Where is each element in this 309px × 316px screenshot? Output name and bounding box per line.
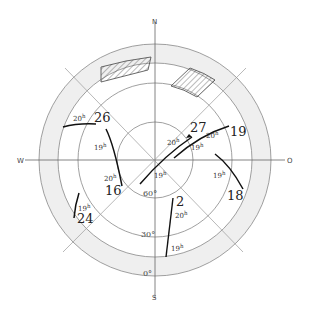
sky-chart: N S W O 60° 30° 0° 20h 26 19h 20h 16 19h… — [0, 0, 309, 316]
track-label-19: 19 — [230, 124, 247, 139]
hour-label: 19h — [213, 170, 226, 180]
track-label-18: 18 — [227, 188, 244, 203]
altitude-30-label: 30° — [141, 230, 155, 239]
west-label: W — [17, 157, 24, 165]
hour-label: 19h — [154, 170, 167, 180]
altitude-60-label: 60° — [143, 189, 157, 198]
track-label-2: 2 — [176, 194, 184, 209]
hour-label: 19h — [191, 142, 204, 152]
hour-label: 19h — [171, 243, 184, 253]
south-label: S — [152, 294, 157, 302]
hour-label: 20h — [206, 130, 219, 140]
track-label-27: 27 — [190, 120, 207, 135]
hour-label: 20h — [73, 113, 86, 123]
track-label-16: 16 — [105, 183, 122, 198]
hour-label: 20h — [175, 210, 188, 220]
track-label-26: 26 — [94, 110, 111, 125]
east-label: O — [287, 157, 293, 165]
hour-label: 20h — [167, 137, 180, 147]
altitude-0-label: 0° — [143, 269, 152, 278]
hour-label: 19h — [94, 142, 107, 152]
track-26 — [63, 124, 96, 127]
north-label: N — [152, 18, 157, 26]
track-27 — [140, 137, 192, 184]
track-label-24: 24 — [77, 211, 94, 226]
hour-label: 20h — [104, 173, 117, 183]
